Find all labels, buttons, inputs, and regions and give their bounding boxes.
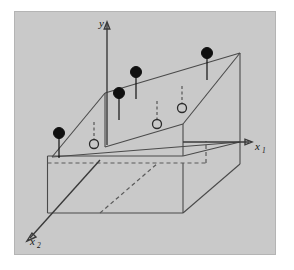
x2-axis-label: x: [29, 235, 35, 247]
observed-point-marker: [202, 48, 213, 59]
regression-plane-diagram: y x 1 x 2: [0, 0, 294, 270]
observed-point-marker: [114, 88, 125, 99]
figure-root: y x 1 x 2: [0, 0, 294, 270]
observed-point-marker: [131, 67, 142, 78]
fitted-point-marker: [90, 140, 99, 149]
fitted-point-marker: [178, 104, 187, 113]
x1-axis-subscript: 1: [262, 146, 266, 155]
observed-point-marker: [54, 128, 65, 139]
fitted-point-marker: [153, 120, 162, 129]
y-axis-label: y: [98, 17, 104, 29]
x2-axis-subscript: 2: [37, 241, 41, 250]
x1-axis-label: x: [254, 140, 260, 152]
